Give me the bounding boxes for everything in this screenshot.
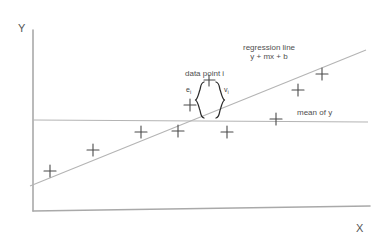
data-point-marker: [135, 126, 147, 138]
x-axis: [33, 206, 370, 211]
left-brace: [196, 82, 205, 118]
deviation-subscript: i: [228, 89, 229, 95]
regression-diagram: Y X regression line y + mx + b data poin…: [0, 0, 378, 242]
regression-line-annotation-line2: y + mx + b: [243, 52, 295, 61]
residual-subscript: i: [190, 89, 191, 95]
diagram-canvas: [0, 0, 378, 242]
y-axis-label: Y: [18, 22, 25, 35]
data-point-marker: [87, 144, 99, 156]
residual-ei-label: ei: [186, 86, 191, 96]
data-point-annotation: data point i: [185, 69, 224, 78]
data-point-marker: [184, 99, 196, 111]
mean-of-y-annotation: mean of y: [297, 108, 332, 117]
data-point-marker: [292, 84, 304, 96]
data-point-marker: [221, 126, 233, 138]
data-point-marker: [172, 125, 184, 137]
x-axis-label: X: [356, 222, 363, 235]
data-point-marker: [270, 113, 282, 125]
deviation-vi-label: vi: [224, 86, 229, 96]
mean-of-y-line: [33, 120, 368, 122]
data-point-marker: [44, 165, 56, 177]
regression-line-annotation: regression line y + mx + b: [243, 43, 295, 61]
regression-line-annotation-line1: regression line: [243, 43, 295, 52]
